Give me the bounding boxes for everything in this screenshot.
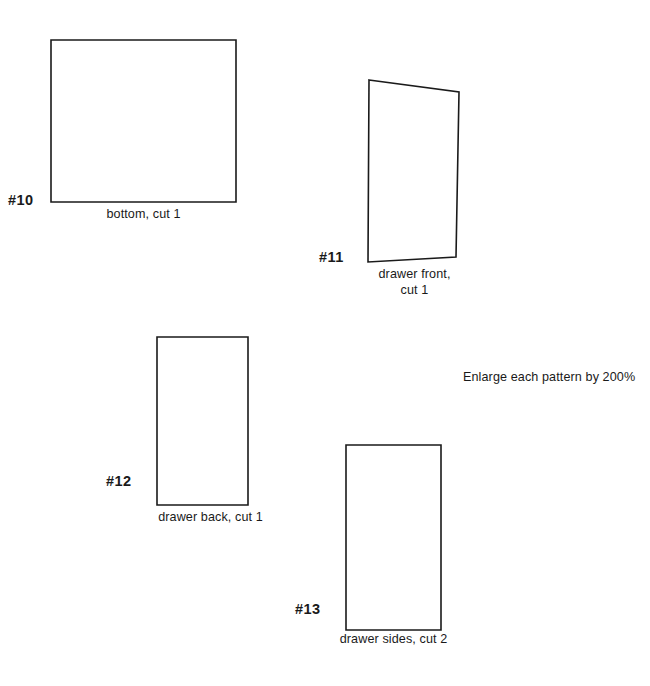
pattern-outlines-group xyxy=(0,0,650,686)
piece-outline-12 xyxy=(157,337,248,505)
piece-caption-11-line1: drawer front, xyxy=(379,267,451,281)
piece-caption-10: bottom, cut 1 xyxy=(51,206,236,222)
piece-caption-11: drawer front,cut 1 xyxy=(322,266,507,298)
piece-outline-10 xyxy=(51,40,236,202)
enlarge-instruction-note: Enlarge each pattern by 200% xyxy=(463,369,635,385)
pattern-sheet: #10 bottom, cut 1 #11 drawer front,cut 1… xyxy=(0,0,650,686)
piece-caption-12: drawer back, cut 1 xyxy=(118,509,303,525)
piece-outline-11 xyxy=(368,80,459,262)
piece-outline-13 xyxy=(346,445,441,630)
piece-caption-13: drawer sides, cut 2 xyxy=(301,631,486,647)
piece-number-10: #10 xyxy=(8,191,33,210)
piece-number-13: #13 xyxy=(295,600,320,619)
piece-number-12: #12 xyxy=(106,472,131,491)
piece-caption-11-line2: cut 1 xyxy=(322,282,507,298)
piece-number-11: #11 xyxy=(319,248,344,267)
